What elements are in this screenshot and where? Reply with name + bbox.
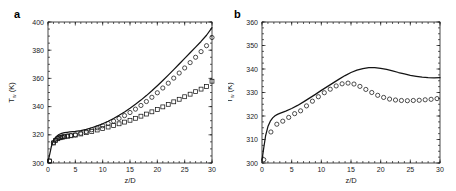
- y-tick-label: 310: [246, 136, 258, 143]
- data-point-circle: [122, 114, 126, 118]
- y-tick-label: 400: [32, 19, 44, 26]
- y-tick-label: 380: [32, 47, 44, 54]
- data-point-square: [144, 112, 148, 116]
- x-tick-label: 30: [436, 166, 444, 173]
- plot-frame: [262, 22, 440, 163]
- data-point-circle: [128, 110, 132, 114]
- data-point-square: [199, 87, 203, 91]
- data-point-circle: [298, 109, 302, 113]
- data-point-circle: [387, 97, 391, 101]
- x-tick-label: 10: [99, 166, 107, 173]
- data-point-circle: [382, 95, 386, 99]
- y-tick-label: 320: [246, 113, 258, 120]
- x-tick-label: 0: [46, 166, 50, 173]
- data-point-square: [112, 124, 116, 128]
- y-tick-label: 350: [246, 42, 258, 49]
- data-point-square: [205, 84, 209, 88]
- data-point-square: [123, 120, 127, 124]
- x-tick-label: 0: [260, 166, 264, 173]
- data-point-circle: [287, 115, 291, 119]
- y-tick-label: 300: [32, 160, 44, 167]
- x-tick-label: 15: [126, 166, 134, 173]
- data-point-square: [155, 107, 159, 111]
- data-point-square: [194, 90, 198, 94]
- data-point-circle: [399, 98, 403, 102]
- data-point-square: [134, 116, 138, 120]
- data-point-circle: [316, 95, 320, 99]
- series-simulation-line: [48, 28, 212, 162]
- data-point-circle: [281, 119, 285, 123]
- data-point-circle: [358, 84, 362, 88]
- data-point-circle: [340, 82, 344, 86]
- data-point-square: [139, 114, 143, 118]
- x-tick-label: 10: [317, 166, 325, 173]
- figure-two-panel-wall-temperature: a 051015202530300320340360380400z/DTw (K…: [0, 0, 456, 191]
- data-point-circle: [177, 71, 181, 75]
- data-point-circle: [334, 84, 338, 88]
- series-experiment-circles: [262, 81, 439, 162]
- x-tick-label: 5: [73, 166, 77, 173]
- panel-b: b 051015202530300310320330340350360z/DTw…: [228, 0, 456, 191]
- data-point-circle: [84, 129, 88, 133]
- y-tick-label: 340: [32, 103, 44, 110]
- data-point-square: [177, 97, 181, 101]
- data-point-circle: [155, 91, 159, 95]
- data-point-circle: [304, 104, 308, 108]
- x-tick-label: 25: [406, 166, 414, 173]
- panel-a-label: a: [14, 9, 20, 20]
- data-point-circle: [352, 82, 356, 86]
- x-tick-label: 15: [347, 166, 355, 173]
- data-point-square: [128, 118, 132, 122]
- data-point-circle: [269, 130, 273, 134]
- data-point-square: [172, 100, 176, 104]
- y-axis-title: Tw (K): [228, 82, 235, 103]
- data-point-circle: [370, 90, 374, 94]
- data-point-circle: [346, 81, 350, 85]
- x-tick-label: 30: [208, 166, 216, 173]
- x-tick-label: 5: [290, 166, 294, 173]
- panel-b-plot: 051015202530300310320330340350360z/DTw (…: [228, 0, 456, 191]
- x-tick-label: 20: [153, 166, 161, 173]
- svg-text:Tw (K): Tw (K): [7, 82, 17, 103]
- data-point-circle: [199, 50, 203, 54]
- y-tick-label: 340: [246, 66, 258, 73]
- panel-b-label: b: [234, 9, 241, 20]
- data-point-circle: [293, 112, 297, 116]
- y-tick-label: 330: [246, 89, 258, 96]
- data-point-circle: [411, 98, 415, 102]
- data-point-circle: [423, 98, 427, 102]
- x-tick-label: 25: [181, 166, 189, 173]
- y-tick-label: 300: [246, 160, 258, 167]
- panel-a-plot: 051015202530300320340360380400z/DTw (K): [0, 0, 228, 191]
- y-tick-label: 360: [32, 75, 44, 82]
- y-tick-label: 360: [246, 19, 258, 26]
- plot-frame: [48, 22, 212, 163]
- x-axis-title: z/D: [124, 176, 136, 185]
- data-point-circle: [328, 87, 332, 91]
- data-point-square: [183, 95, 187, 99]
- data-point-circle: [117, 116, 121, 120]
- data-point-circle: [144, 99, 148, 103]
- svg-text:Tw (K): Tw (K): [228, 82, 235, 103]
- data-point-circle: [172, 76, 176, 80]
- y-tick-label: 320: [32, 131, 44, 138]
- data-point-circle: [310, 99, 314, 103]
- data-point-circle: [133, 107, 137, 111]
- data-point-square: [117, 122, 121, 126]
- x-tick-label: 20: [377, 166, 385, 173]
- data-point-square: [166, 102, 170, 106]
- data-point-circle: [194, 55, 198, 59]
- panel-a: a 051015202530300320340360380400z/DTw (K…: [0, 0, 228, 191]
- data-point-circle: [364, 87, 368, 91]
- data-point-circle: [204, 44, 208, 48]
- data-point-circle: [161, 86, 165, 90]
- data-point-circle: [417, 98, 421, 102]
- x-axis-title: z/D: [345, 176, 357, 185]
- data-point-circle: [150, 95, 154, 99]
- data-point-square: [188, 92, 192, 96]
- series-simulation-line: [262, 68, 440, 161]
- y-axis-title: Tw (K): [7, 82, 17, 103]
- data-point-circle: [166, 81, 170, 85]
- data-point-circle: [183, 66, 187, 70]
- data-point-square: [150, 110, 154, 114]
